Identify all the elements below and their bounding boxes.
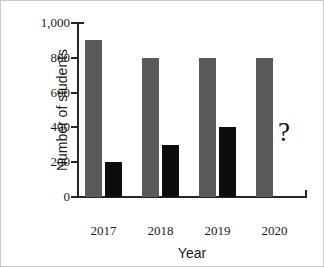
bar-gray-series-2020	[256, 58, 273, 197]
y-tick-mark	[71, 92, 78, 94]
chart-figure-frame: Number of students 02004006008001,000 ? …	[0, 0, 324, 267]
x-tick-label-2019: 2019	[205, 223, 231, 239]
y-tick-label: 0	[64, 189, 71, 205]
y-tick-label: 200	[51, 154, 71, 170]
bar-gray-series-2018	[142, 58, 159, 197]
y-tick-mark	[71, 196, 78, 198]
x-tick-label-2018: 2018	[148, 223, 174, 239]
bar-gray-series-2017	[85, 40, 102, 197]
y-tick-label: 1,000	[41, 15, 70, 31]
y-axis-title: Number of students	[54, 49, 70, 171]
x-tick-label-2020: 2020	[262, 223, 288, 239]
plot-area: Number of students 02004006008001,000 ? …	[78, 23, 306, 197]
y-tick-mark	[71, 126, 78, 128]
y-tick-label: 600	[51, 85, 71, 101]
bar-black-series-2017	[105, 162, 122, 197]
x-axis-title: Year	[78, 245, 306, 261]
y-tick-mark	[71, 161, 78, 163]
y-tick-mark	[71, 22, 78, 24]
bar-black-series-2019	[219, 127, 236, 197]
bar-gray-series-2019	[199, 58, 216, 197]
y-tick-label: 800	[51, 50, 71, 66]
y-tick-mark	[71, 57, 78, 59]
bar-black-series-2018	[162, 145, 179, 197]
y-tick-label: 400	[51, 119, 71, 135]
x-tick-label-2017: 2017	[91, 223, 117, 239]
missing-value-marker: ?	[278, 119, 290, 146]
